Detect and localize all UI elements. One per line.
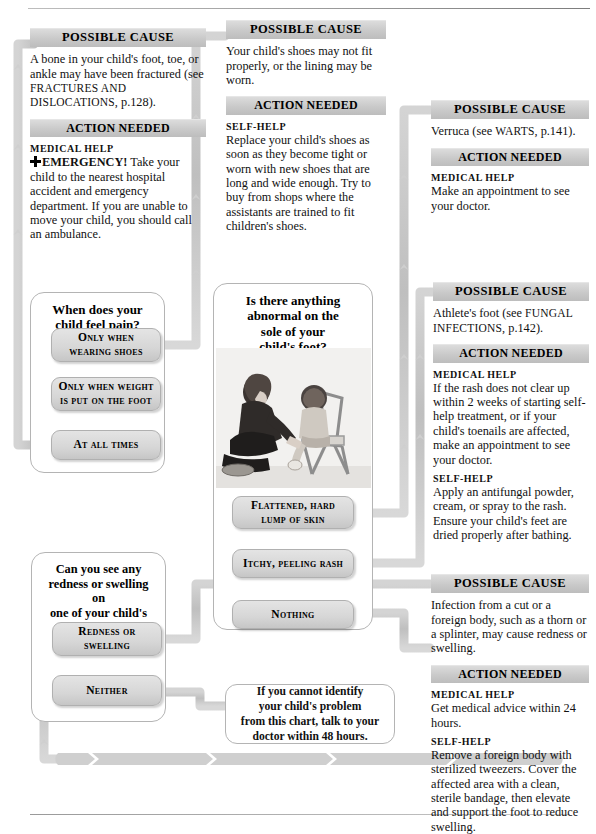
panel-infection-cause-text: Infection from a cut or a foreign body, … <box>431 598 589 656</box>
end-note-consult-doctor: If you cannot identify your child's prob… <box>225 684 395 744</box>
question2-title-line3: sole of your <box>261 324 325 339</box>
q2-option2-label: Itchy, peeling rash <box>243 557 343 571</box>
endnote-line4: doctor within 48 hours. <box>252 730 367 743</box>
question2-title-line2: abnormal on the <box>247 308 339 323</box>
option-neither[interactable]: Neither <box>52 675 162 706</box>
panel-fracture-medical-label: MEDICAL HELP <box>30 143 206 154</box>
panel-verruca-medical-text: Make an appointment to see your doctor. <box>431 184 589 213</box>
panel-verruca-medical-label: MEDICAL HELP <box>431 172 589 183</box>
panel-fracture: POSSIBLE CAUSE A bone in your child's fo… <box>30 28 206 242</box>
option-flattened-hard-lump[interactable]: Flattened, hard lump of skin <box>232 496 354 529</box>
panel-fracture-medical-text: EMERGENCY! Take your child to the neares… <box>30 155 206 241</box>
panel-athletes-medical-text: If the rash does not clear up within 2 w… <box>433 381 589 467</box>
option1-line2: wearing shoes <box>69 345 142 357</box>
cause-text-a: A bone in your child's foot, toe, or ank… <box>30 52 204 80</box>
athletes-cause-a: Athlete's foot (see <box>433 306 525 320</box>
option3-label: At all times <box>73 438 138 452</box>
panel-verruca-cause-text: Verruca (see WARTS, p.141). <box>431 124 589 138</box>
panel-infection-self-text: Remove a foreign body with sterilized tw… <box>431 748 589 834</box>
panel-verruca-cause-header: POSSIBLE CAUSE <box>431 100 589 119</box>
panel-verruca-action-header: ACTION NEEDED <box>431 148 589 167</box>
panel-shoes: POSSIBLE CAUSE Your child's shoes may no… <box>226 20 386 233</box>
verruca-cause-a: Verruca (see <box>431 124 495 138</box>
option-only-when-wearing-shoes[interactable]: Only when wearing shoes <box>51 328 161 362</box>
option2-line1: Only when weight <box>58 380 153 392</box>
verruca-cause-b: , p.141). <box>534 124 575 138</box>
panel-shoes-self-text: Replace your child's shoes as soon as th… <box>226 133 386 234</box>
q2-option3-label: Nothing <box>271 608 314 622</box>
q3-option1-line1: Redness or <box>78 625 135 637</box>
panel-infection-cause-header: POSSIBLE CAUSE <box>431 574 589 593</box>
option-nothing[interactable]: Nothing <box>232 600 354 629</box>
question3-title-line2: redness or swelling on <box>48 577 148 606</box>
verruca-cause-smallcaps: WARTS <box>495 125 534 137</box>
panel-athletes-cause-text: Athlete's foot (see FUNGAL INFECTIONS, p… <box>433 306 589 335</box>
panel-infection-medical-text: Get medical advice within 24 hours. <box>431 701 589 730</box>
option2-line2: is put on the foot <box>60 394 152 406</box>
panel-athletes-cause-header: POSSIBLE CAUSE <box>433 282 589 301</box>
cause-text-b: , p.128). <box>115 95 156 109</box>
panel-athletes-self-text: Apply an antifungal powder, cream, or sp… <box>433 485 589 543</box>
endnote-line2: your child's problem <box>259 700 362 713</box>
q2-option1-line2: lump of skin <box>261 513 325 525</box>
panel-fracture-cause-header: POSSIBLE CAUSE <box>30 28 206 47</box>
panel-infection-self-label: SELF-HELP <box>431 736 589 747</box>
panel-shoes-cause-text: Your child's shoes may not fit properly,… <box>226 44 386 87</box>
panel-infection-medical-label: MEDICAL HELP <box>431 689 589 700</box>
option-only-when-weight-on-foot[interactable]: Only when weight is put on the foot <box>51 377 161 411</box>
panel-infection: POSSIBLE CAUSE Infection from a cut or a… <box>431 574 589 834</box>
option1-line1: Only when <box>78 331 134 343</box>
question1-title-line1: When does your <box>52 302 142 317</box>
emergency-cross-icon <box>30 156 40 166</box>
option-at-all-times[interactable]: At all times <box>51 430 161 460</box>
panel-athletes-foot: POSSIBLE CAUSE Athlete's foot (see FUNGA… <box>433 282 589 542</box>
panel-athletes-self-label: SELF-HELP <box>433 473 589 484</box>
panel-athletes-action-header: ACTION NEEDED <box>433 344 589 363</box>
panel-fracture-cause-text: A bone in your child's foot, toe, or ank… <box>30 52 206 110</box>
emergency-label: EMERGENCY! <box>42 155 127 169</box>
q3-option1-line2: swelling <box>84 639 130 651</box>
panel-infection-action-header: ACTION NEEDED <box>431 665 589 684</box>
q2-option1-line1: Flattened, hard <box>251 499 335 511</box>
question3-title-line1: Can you see any <box>56 562 142 576</box>
option-redness-or-swelling[interactable]: Redness or swelling <box>52 622 162 656</box>
endnote-line1: If you cannot identify <box>257 685 364 698</box>
panel-athletes-medical-label: MEDICAL HELP <box>433 369 589 380</box>
photo-parent-examining-childs-foot <box>216 348 371 488</box>
endnote-line3: from this chart, talk to your <box>241 715 379 728</box>
panel-verruca: POSSIBLE CAUSE Verruca (see WARTS, p.141… <box>431 100 589 213</box>
question1-title: When does your child feel pain? <box>31 293 164 333</box>
athletes-cause-b: , p.142). <box>502 321 543 335</box>
question2-title-line1: Is there anything <box>246 293 340 308</box>
q3-option2-label: Neither <box>86 684 128 698</box>
panel-fracture-action-header: ACTION NEEDED <box>30 119 206 138</box>
question2-title: Is there anything abnormal on the sole o… <box>214 284 372 354</box>
panel-shoes-self-label: SELF-HELP <box>226 121 386 132</box>
panel-shoes-action-header: ACTION NEEDED <box>226 96 386 115</box>
option-itchy-peeling-rash[interactable]: Itchy, peeling rash <box>232 549 354 578</box>
cause-text-smallcaps: FRACTURES AND DISLOCATIONS <box>30 82 126 108</box>
panel-shoes-cause-header: POSSIBLE CAUSE <box>226 20 386 39</box>
question3-title-line3: one of your child's <box>50 606 147 620</box>
